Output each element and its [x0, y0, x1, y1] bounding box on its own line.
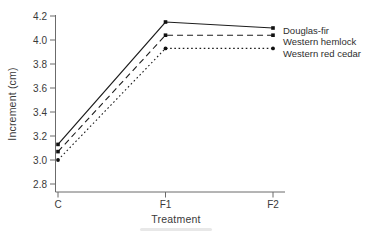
y-tick-label: 3.0	[33, 155, 47, 166]
y-axis-title: Increment (cm)	[6, 67, 18, 140]
scan-artifact	[140, 228, 212, 231]
x-axis-title: Treatment	[151, 213, 200, 225]
series-marker	[56, 158, 60, 162]
series-label: Douglas-fir	[283, 25, 329, 36]
series-marker	[164, 33, 168, 37]
y-tick-label: 4.0	[33, 35, 47, 46]
series-marker	[271, 47, 275, 51]
line-chart-figure: 2.83.03.23.43.63.84.04.2CF1F2Douglas-fir…	[0, 0, 375, 234]
axes	[56, 15, 286, 192]
y-tick-label: 3.8	[33, 59, 47, 70]
x-tick-label: F1	[160, 199, 172, 210]
series-line-western-red-cedar	[58, 48, 273, 160]
series-marker	[271, 26, 275, 30]
series-marker	[164, 47, 168, 51]
y-tick-label: 2.8	[33, 179, 47, 190]
series-line-western-hemlock	[58, 35, 273, 151]
series-marker	[164, 20, 168, 24]
series-marker	[56, 150, 60, 154]
series-label: Western red cedar	[283, 48, 361, 59]
series-marker	[56, 143, 60, 147]
y-tick-label: 3.2	[33, 131, 47, 142]
y-tick-label: 3.6	[33, 83, 47, 94]
y-tick-label: 4.2	[33, 11, 47, 22]
x-tick-label: F2	[267, 199, 279, 210]
chart-canvas: 2.83.03.23.43.63.84.04.2CF1F2Douglas-fir…	[0, 0, 375, 234]
series-label: Western hemlock	[283, 36, 356, 47]
series-marker	[271, 33, 275, 37]
y-tick-label: 3.4	[33, 107, 47, 118]
x-tick-label: C	[54, 199, 61, 210]
